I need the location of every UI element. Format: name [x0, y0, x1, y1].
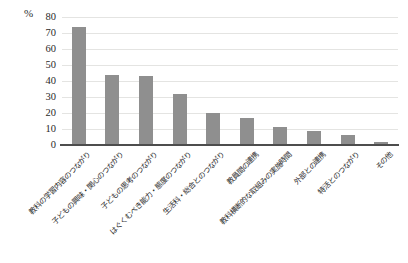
- bar: [307, 131, 321, 145]
- bar: [206, 113, 220, 145]
- gridline: [62, 33, 398, 34]
- bar: [105, 75, 119, 145]
- y-axis-tick-label: 70: [26, 27, 56, 39]
- y-axis-tick-label: 80: [26, 11, 56, 23]
- y-axis-tick-label: 20: [26, 107, 56, 119]
- y-axis-tick-label: 40: [26, 75, 56, 87]
- y-axis-tick-label: 60: [26, 43, 56, 55]
- y-axis-tick-label: 30: [26, 91, 56, 103]
- x-axis-category-label: 生活科・総合とのつながり: [160, 149, 227, 216]
- gridline: [62, 65, 398, 66]
- x-axis-line: [60, 144, 399, 146]
- bar: [139, 76, 153, 145]
- gridline: [62, 17, 398, 18]
- plot-area: 01020304050607080教科の学習内容のつながり子どもの興味・関心のつ…: [0, 0, 408, 263]
- bar-chart: % 01020304050607080教科の学習内容のつながり子どもの興味・関心…: [0, 0, 408, 263]
- y-axis-tick-label: 10: [26, 123, 56, 135]
- gridline: [62, 49, 398, 50]
- bar: [240, 118, 254, 145]
- bar: [273, 127, 287, 145]
- bar: [173, 94, 187, 145]
- bar: [72, 27, 86, 145]
- y-axis-tick-label: 0: [26, 139, 56, 151]
- x-axis-category-label: その他: [372, 149, 395, 172]
- y-axis-tick-label: 50: [26, 59, 56, 71]
